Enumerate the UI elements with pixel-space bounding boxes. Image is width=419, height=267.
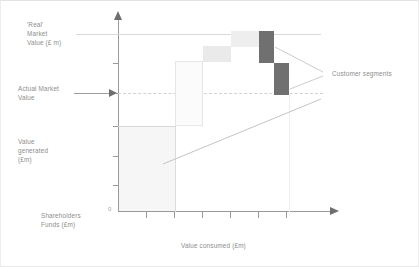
label-real-market-value: 'Real' Market Value (£ m) bbox=[27, 20, 97, 48]
label-x-axis-title: Value consumed (£m) bbox=[181, 241, 301, 250]
callout-line-segment-5 bbox=[290, 76, 323, 89]
callout-line-segment-4 bbox=[275, 47, 323, 72]
actual-market-value-arrow-line bbox=[74, 93, 112, 94]
label-value-generated: Value generated (£m) bbox=[18, 137, 88, 165]
figure-frame: 0 'Real' Market Value (£ m) bbox=[0, 0, 419, 267]
label-customer-segments: Customer segments bbox=[332, 69, 419, 78]
label-shareholders-funds: Shareholders Funds (£m) bbox=[41, 211, 113, 229]
trend-line bbox=[163, 99, 321, 164]
actual-market-value-arrow-icon bbox=[109, 89, 117, 97]
